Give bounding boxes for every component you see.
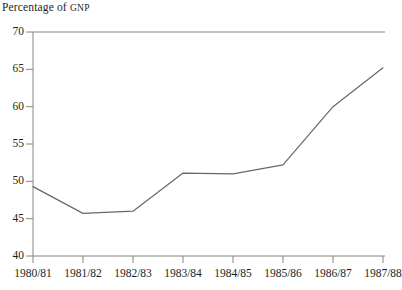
x-tick-label-6: 1986/87 [314, 267, 352, 279]
x-tick-label-1: 1981/82 [64, 267, 102, 279]
y-tick-label-70: 70 [2, 26, 24, 38]
x-tick-label-4: 1984/85 [214, 267, 252, 279]
y-tick-label-60: 60 [2, 101, 24, 113]
x-tick-label-3: 1983/84 [164, 267, 202, 279]
x-tick-label-2: 1982/83 [114, 267, 152, 279]
y-tick-label-50: 50 [2, 175, 24, 187]
x-tick-label-7: 1987/88 [364, 267, 402, 279]
y-tick-label-40: 40 [2, 250, 24, 262]
x-tick-label-0: 1980/81 [14, 267, 52, 279]
y-tick-label-55: 55 [2, 138, 24, 150]
data-series-line [33, 68, 383, 214]
x-tick-label-5: 1985/86 [264, 267, 302, 279]
x-axis [33, 256, 385, 263]
y-axis [26, 32, 33, 256]
y-tick-label-45: 45 [2, 213, 24, 225]
y-tick-label-65: 65 [2, 63, 24, 75]
